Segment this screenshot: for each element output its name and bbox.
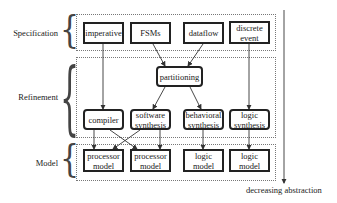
node-behavioral-synthesis: behavioral synthesis [183,109,224,130]
node-logic-synthesis: logic synthesis [229,109,270,130]
node-logic-model-2: logic model [229,149,270,172]
node-processor-model-2: processor model [130,149,171,172]
node-dataflow: dataflow [183,22,224,44]
abstraction-axis-label: decreasing abstraction [246,185,322,195]
node-discrete-event: discrete event [229,21,270,44]
node-fsms: FSMs [130,22,171,44]
node-software-synthesis: software synthesis [130,109,171,130]
node-compiler: compiler [83,109,124,130]
node-logic-model-1: logic model [183,149,224,172]
node-imperative: imperative [83,22,124,44]
node-partitioning: partitioning [156,66,203,87]
node-processor-model-1: processor model [83,149,124,172]
